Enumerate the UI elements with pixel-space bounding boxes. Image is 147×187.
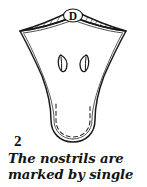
figure-plate: D 2 The nostrils are marked by single — [0, 0, 147, 187]
caption-block: 2 The nostrils are marked by single — [0, 134, 147, 187]
brow-band-label: D — [69, 10, 77, 22]
figure-drawing-svg: D — [0, 0, 147, 150]
figure-number: 2 — [14, 134, 22, 149]
face-outline-group: D — [20, 9, 126, 142]
figure-drawing: D — [0, 0, 147, 150]
caption-line-1: The nostrils are — [8, 151, 147, 166]
caption-line-2: marked by single — [8, 167, 147, 182]
outer-contour — [20, 17, 126, 142]
